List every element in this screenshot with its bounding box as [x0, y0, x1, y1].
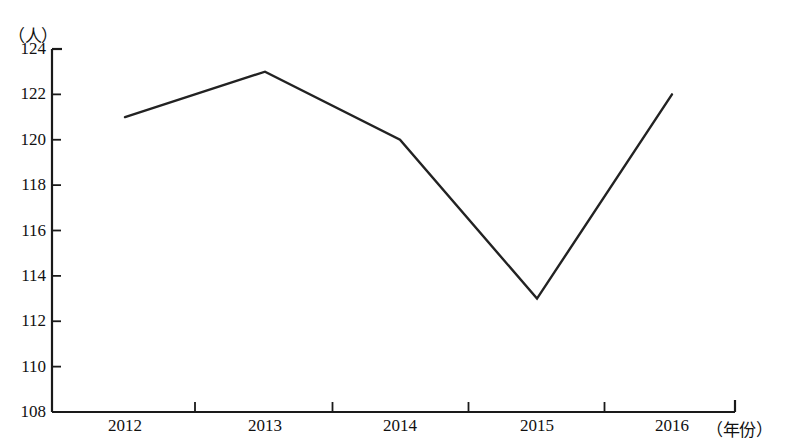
- plot-area: [0, 0, 792, 441]
- y-axis-ticks: [52, 94, 61, 412]
- x-axis-ticks: [195, 402, 605, 412]
- line-chart: （人） （年份） 108110112114116118120122124 201…: [0, 0, 792, 441]
- axis-lines: [52, 49, 735, 412]
- data-series-line: [125, 72, 672, 299]
